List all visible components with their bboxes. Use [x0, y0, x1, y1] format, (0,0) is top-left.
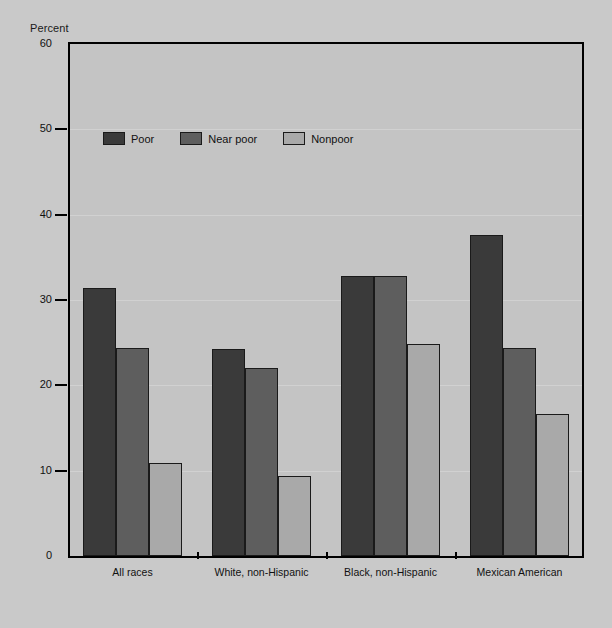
legend-item-poor: Poor [103, 132, 154, 145]
x-axis-labels: All racesWhite, non-HispanicBlack, non-H… [68, 566, 584, 592]
y-axis: 0102030405060 [0, 0, 68, 628]
y-axis-tick [55, 128, 67, 130]
y-axis-tick [55, 470, 67, 472]
gridline [70, 471, 582, 472]
x-axis-label-0: All races [112, 566, 152, 578]
legend-label-poor: Poor [131, 133, 154, 145]
gridline [70, 215, 582, 216]
y-axis-tick [55, 299, 67, 301]
page-background: Percent 0102030405060 All racesWhite, no… [0, 0, 612, 628]
legend-swatch-poor [103, 132, 125, 145]
chart-legend: PoorNear poorNonpoor [103, 132, 353, 145]
y-axis-tick [55, 214, 67, 216]
y-axis-tick-label: 0 [10, 549, 52, 561]
y-axis-tick-label: 60 [10, 37, 52, 49]
legend-swatch-nonpoor [283, 132, 305, 145]
plot-area [68, 42, 584, 558]
x-axis-label-3: Mexican American [477, 566, 563, 578]
legend-item-nonpoor: Nonpoor [283, 132, 353, 145]
gridline [70, 385, 582, 386]
legend-swatch-nearpoor [180, 132, 202, 145]
legend-item-nearpoor: Near poor [180, 132, 257, 145]
y-axis-tick-label: 10 [10, 464, 52, 476]
gridline [70, 300, 582, 301]
y-axis-tick-label: 30 [10, 293, 52, 305]
y-axis-tick-label: 40 [10, 208, 52, 220]
x-axis-label-1: White, non-Hispanic [215, 566, 309, 578]
legend-label-nearpoor: Near poor [208, 133, 257, 145]
y-axis-tick [55, 384, 67, 386]
y-axis-tick-label: 50 [10, 122, 52, 134]
legend-label-nonpoor: Nonpoor [311, 133, 353, 145]
y-axis-tick-label: 20 [10, 378, 52, 390]
gridline [70, 129, 582, 130]
bar-chart-figure: Percent 0102030405060 All racesWhite, no… [0, 0, 612, 628]
x-axis-label-2: Black, non-Hispanic [344, 566, 437, 578]
